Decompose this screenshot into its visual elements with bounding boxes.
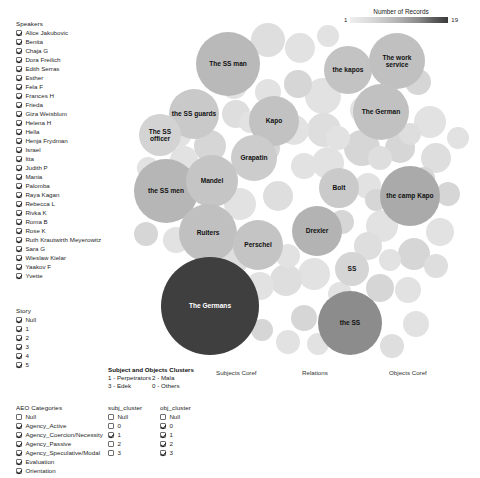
speakers-item[interactable]: Palomba	[16, 182, 101, 191]
bubble-node[interactable]: The work service	[369, 33, 425, 89]
obj-cluster-item[interactable]: 0	[160, 422, 191, 431]
checkbox-icon[interactable]	[16, 450, 22, 456]
speakers-item[interactable]: Hella	[16, 128, 101, 137]
aeo-item[interactable]: Agency_Active	[16, 422, 103, 431]
checkbox-icon[interactable]	[16, 326, 22, 332]
speakers-item[interactable]: Wieslaw Kielar	[16, 254, 101, 263]
bubble-node[interactable]	[380, 334, 404, 358]
checkbox-icon[interactable]	[16, 353, 22, 359]
subj-cluster-item[interactable]: 3	[108, 449, 142, 458]
checkbox-icon[interactable]	[16, 30, 22, 36]
aeo-item[interactable]: Orientation	[16, 467, 103, 476]
story-item[interactable]: 3	[16, 343, 36, 352]
bubble-node[interactable]	[447, 127, 469, 149]
speakers-item[interactable]: Giza Weisblum	[16, 110, 101, 119]
checkbox-icon[interactable]	[108, 423, 114, 429]
checkbox-icon[interactable]	[16, 174, 22, 180]
checkbox-icon[interactable]	[160, 432, 166, 438]
checkbox-icon[interactable]	[16, 441, 22, 447]
checkbox-icon[interactable]	[108, 450, 114, 456]
speakers-item[interactable]: Yvette	[16, 272, 101, 281]
speakers-item[interactable]: Judith P	[16, 164, 101, 173]
bubble-node[interactable]: The Germans	[161, 257, 259, 355]
speakers-item[interactable]: Roma B	[16, 218, 101, 227]
checkbox-icon[interactable]	[160, 450, 166, 456]
speakers-item[interactable]: Edith Serras	[16, 65, 101, 74]
checkbox-icon[interactable]	[16, 129, 22, 135]
checkbox-icon[interactable]	[16, 246, 22, 252]
bubble-node[interactable]: the kapos	[324, 46, 372, 94]
checkbox-icon[interactable]	[16, 228, 22, 234]
checkbox-icon[interactable]	[16, 156, 22, 162]
bubble-node[interactable]	[379, 249, 401, 271]
bubble-node[interactable]	[426, 218, 454, 246]
bubble-node[interactable]	[270, 264, 302, 296]
speakers-item[interactable]: Yaakov F	[16, 263, 101, 272]
bubble-node[interactable]	[424, 254, 448, 278]
aeo-item[interactable]: Agency_Coercion/Necessity	[16, 431, 103, 440]
bubble-node[interactable]	[134, 222, 158, 246]
speakers-item[interactable]: Esther	[16, 74, 101, 83]
bubble-node[interactable]	[298, 258, 330, 290]
bubble-node[interactable]: Perschel	[233, 220, 283, 270]
speakers-item[interactable]: Raya Kagan	[16, 191, 101, 200]
bubble-node[interactable]: The SS officer	[139, 114, 181, 156]
aeo-item[interactable]: Evaluation	[16, 458, 103, 467]
checkbox-icon[interactable]	[16, 459, 22, 465]
checkbox-icon[interactable]	[16, 201, 22, 207]
speakers-item[interactable]: Sara G	[16, 245, 101, 254]
speakers-item[interactable]: Helena H	[16, 119, 101, 128]
story-item[interactable]: 5	[16, 361, 36, 370]
bubble-node[interactable]	[276, 330, 300, 354]
checkbox-icon[interactable]	[16, 344, 22, 350]
speakers-item[interactable]: Mania	[16, 173, 101, 182]
bubble-node[interactable]	[317, 25, 339, 47]
checkbox-icon[interactable]	[16, 432, 22, 438]
speakers-item[interactable]: Benita	[16, 38, 101, 47]
speakers-item[interactable]: Rivka K	[16, 209, 101, 218]
speakers-item[interactable]: Israel	[16, 146, 101, 155]
story-item[interactable]: Null	[16, 316, 36, 325]
bubble-node[interactable]: The German	[353, 84, 409, 140]
checkbox-icon[interactable]	[16, 219, 22, 225]
subj-cluster-item[interactable]: Null	[108, 413, 142, 422]
speakers-item[interactable]: Itta	[16, 155, 101, 164]
subj-cluster-item[interactable]: 1	[108, 431, 142, 440]
bubble-node[interactable]: The SS man	[196, 32, 260, 96]
checkbox-icon[interactable]	[16, 264, 22, 270]
bubble-node[interactable]: Drexler	[292, 206, 342, 256]
bubble-node[interactable]: Mandel	[186, 155, 238, 207]
checkbox-icon[interactable]	[16, 57, 22, 63]
speakers-item[interactable]: Frances H	[16, 92, 101, 101]
bubble-node[interactable]	[284, 70, 312, 98]
speakers-item[interactable]: Chaja G	[16, 47, 101, 56]
bubble-node[interactable]	[263, 181, 293, 211]
checkbox-icon[interactable]	[16, 75, 22, 81]
checkbox-icon[interactable]	[16, 362, 22, 368]
checkbox-icon[interactable]	[16, 138, 22, 144]
bubble-node[interactable]: Grapatin	[231, 135, 277, 181]
checkbox-icon[interactable]	[16, 423, 22, 429]
bubble-node[interactable]	[326, 126, 350, 150]
bubble-node[interactable]	[368, 146, 392, 170]
checkbox-icon[interactable]	[108, 432, 114, 438]
story-item[interactable]: 1	[16, 325, 36, 334]
checkbox-icon[interactable]	[160, 414, 166, 420]
bubble-node[interactable]: the SS	[318, 291, 382, 355]
obj-cluster-item[interactable]: 1	[160, 431, 191, 440]
checkbox-icon[interactable]	[16, 273, 22, 279]
story-item[interactable]: 4	[16, 352, 36, 361]
checkbox-icon[interactable]	[16, 255, 22, 261]
checkbox-icon[interactable]	[108, 414, 114, 420]
checkbox-icon[interactable]	[16, 93, 22, 99]
checkbox-icon[interactable]	[16, 335, 22, 341]
checkbox-icon[interactable]	[16, 102, 22, 108]
checkbox-icon[interactable]	[16, 111, 22, 117]
bubble-node[interactable]: SS	[335, 252, 369, 286]
checkbox-icon[interactable]	[16, 192, 22, 198]
bubble-node[interactable]	[291, 153, 317, 179]
checkbox-icon[interactable]	[16, 84, 22, 90]
checkbox-icon[interactable]	[160, 423, 166, 429]
checkbox-icon[interactable]	[16, 66, 22, 72]
obj-cluster-item[interactable]: Null	[160, 413, 191, 422]
